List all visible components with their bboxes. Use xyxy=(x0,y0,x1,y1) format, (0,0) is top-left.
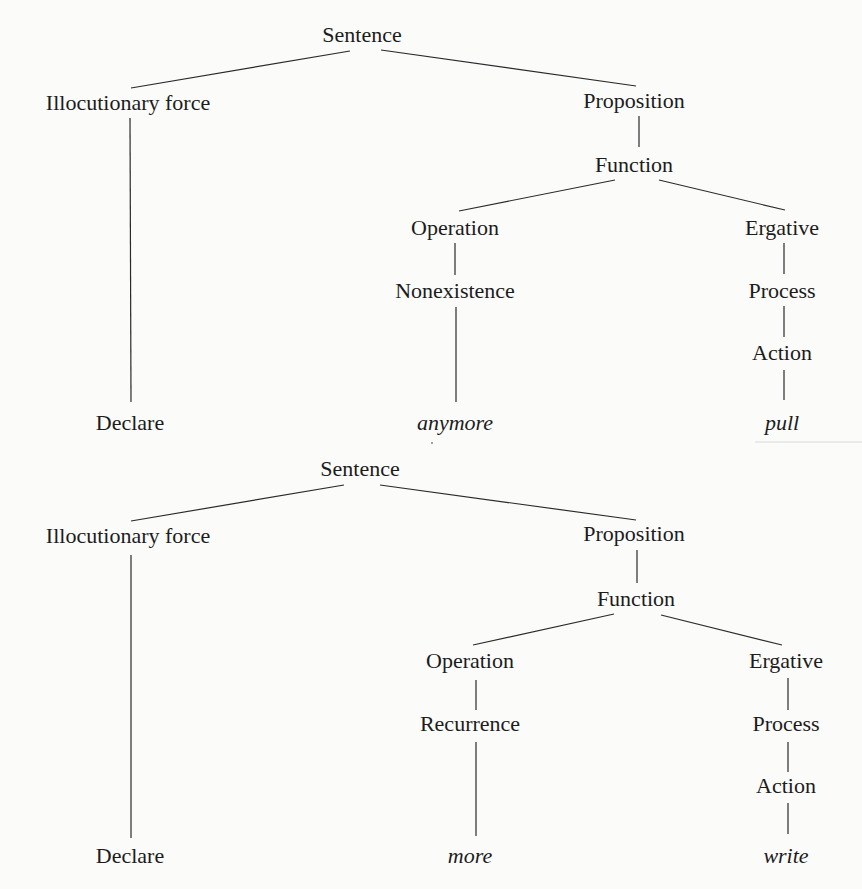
node-function: Function xyxy=(597,586,675,611)
edge-sentence-to-illocutionary-force xyxy=(131,485,344,521)
node-declare: Declare xyxy=(96,843,164,868)
node-illocutionary-force: Illocutionary force xyxy=(46,90,210,115)
node-nonexistence: Nonexistence xyxy=(395,278,515,303)
node-action: Action xyxy=(756,773,816,798)
edge-function-to-operation xyxy=(473,614,614,645)
node-recurrence: Recurrence xyxy=(420,711,520,736)
speck-mark xyxy=(431,442,433,444)
edge-sentence-to-proposition xyxy=(380,485,636,520)
node-process: Process xyxy=(752,711,819,736)
edge-function-to-ergative xyxy=(659,180,785,210)
node-process: Process xyxy=(748,278,815,303)
edge-function-to-operation xyxy=(459,180,615,211)
edge-sentence-to-illocutionary-force xyxy=(131,51,350,88)
node-ergative: Ergative xyxy=(745,215,819,240)
node-illocutionary-force: Illocutionary force xyxy=(46,523,210,548)
node-ergative: Ergative xyxy=(749,648,823,673)
node-more: more xyxy=(448,843,493,868)
edge-function-to-ergative xyxy=(661,615,782,645)
node-declare: Declare xyxy=(96,410,164,435)
node-function: Function xyxy=(595,152,673,177)
node-action: Action xyxy=(752,340,812,365)
edge-illocutionary-force-to-declare xyxy=(130,118,131,402)
node-write: write xyxy=(763,843,808,868)
tree-more-write: SentenceIllocutionary forcePropositionFu… xyxy=(46,456,823,868)
node-sentence: Sentence xyxy=(322,22,401,47)
node-operation: Operation xyxy=(426,648,514,673)
node-proposition: Proposition xyxy=(583,88,684,113)
tree-anymore-pull: SentenceIllocutionary forcePropositionFu… xyxy=(46,22,819,435)
edge-sentence-to-proposition xyxy=(381,50,636,86)
node-sentence: Sentence xyxy=(320,456,399,481)
node-pull: pull xyxy=(763,410,799,435)
node-operation: Operation xyxy=(411,215,499,240)
tree-diagram: SentenceIllocutionary forcePropositionFu… xyxy=(0,0,862,889)
node-proposition: Proposition xyxy=(583,521,684,546)
node-anymore: anymore xyxy=(417,410,493,435)
